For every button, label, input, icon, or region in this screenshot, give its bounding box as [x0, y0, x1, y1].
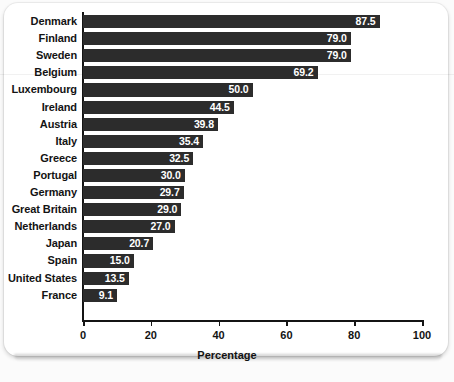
x-axis-tick-label: 0 [80, 329, 86, 341]
bar-value-label: 32.5 [169, 152, 189, 165]
bar-value-label: 39.8 [194, 118, 214, 131]
category-label: Portugal [33, 167, 77, 184]
x-axis-tick-label: 60 [280, 329, 292, 341]
category-label: Belgium [34, 64, 77, 81]
bar-row: Greece32.5 [83, 150, 422, 167]
bar-value-label: 27.0 [150, 220, 170, 233]
bar-value-label: 20.7 [129, 237, 149, 250]
x-axis-tick-label: 80 [348, 329, 360, 341]
category-label: Netherlands [15, 218, 77, 235]
x-axis-title: Percentage [0, 349, 454, 361]
bar-value-label: 44.5 [210, 101, 230, 114]
bar-row: Ireland44.5 [83, 99, 422, 116]
bar-row: Great Britain29.0 [83, 201, 422, 218]
bar: 29.7 [83, 186, 184, 199]
bar: 32.5 [83, 152, 193, 165]
bar-value-label: 79.0 [327, 32, 347, 45]
bar-value-label: 87.5 [356, 15, 376, 28]
category-label: Finland [39, 30, 77, 47]
category-label: Spain [48, 252, 77, 269]
bar: 30.0 [83, 169, 185, 182]
bar-row: Luxembourg50.0 [83, 81, 422, 98]
category-label: France [42, 287, 77, 304]
bar: 13.5 [83, 272, 129, 285]
x-axis-tick [354, 320, 356, 326]
category-label: Germany [30, 184, 77, 201]
x-axis-tick-label: 100 [413, 329, 431, 341]
bar: 87.5 [83, 15, 380, 28]
x-axis-tick [422, 320, 424, 326]
bar-row: Sweden79.0 [83, 47, 422, 64]
bar-value-label: 13.5 [105, 272, 125, 285]
bar-chart-plot-area: Denmark87.5Finland79.0Sweden79.0Belgium6… [83, 12, 422, 320]
category-label: Luxembourg [11, 81, 77, 98]
bar: 29.0 [83, 203, 181, 216]
x-axis-tick-label: 20 [145, 329, 157, 341]
bar-value-label: 50.0 [228, 83, 248, 96]
bar-row: Spain15.0 [83, 252, 422, 269]
bar-row: Italy35.4 [83, 133, 422, 150]
category-label: Great Britain [12, 201, 77, 218]
bar-value-label: 79.0 [327, 49, 347, 62]
bar-value-label: 29.7 [160, 186, 180, 199]
category-label: Italy [55, 133, 77, 150]
bar-value-label: 30.0 [161, 169, 181, 182]
bar-value-label: 29.0 [157, 203, 177, 216]
bar: 27.0 [83, 220, 175, 233]
bar-row: France9.1 [83, 287, 422, 304]
bar-row: Finland79.0 [83, 30, 422, 47]
bar-value-label: 15.0 [110, 254, 130, 267]
bar-row: Denmark87.5 [83, 13, 422, 30]
bar: 35.4 [83, 135, 203, 148]
bar: 44.5 [83, 101, 234, 114]
bar-row: Japan20.7 [83, 235, 422, 252]
bar: 50.0 [83, 83, 253, 96]
category-label: Greece [40, 150, 77, 167]
bar: 79.0 [83, 49, 351, 62]
x-axis-tick [286, 320, 288, 326]
bar-value-label: 9.1 [99, 289, 113, 302]
bar-row: Austria39.8 [83, 116, 422, 133]
category-label: United States [8, 270, 77, 287]
bar-value-label: 69.2 [294, 66, 314, 79]
x-axis-line [82, 320, 423, 322]
bar-row: Netherlands27.0 [83, 218, 422, 235]
bar: 20.7 [83, 237, 153, 250]
bar-row: Belgium69.2 [83, 64, 422, 81]
category-label: Denmark [31, 13, 77, 30]
category-label: Japan [46, 235, 77, 252]
bar-row: United States13.5 [83, 270, 422, 287]
category-label: Ireland [42, 99, 77, 116]
bar-value-label: 35.4 [179, 135, 199, 148]
chart-page: Denmark87.5Finland79.0Sweden79.0Belgium6… [0, 0, 454, 382]
x-axis-tick [219, 320, 221, 326]
bar: 39.8 [83, 118, 218, 131]
category-label: Sweden [36, 47, 77, 64]
x-axis-tick-label: 40 [212, 329, 224, 341]
bar: 15.0 [83, 254, 134, 267]
x-axis-tick [83, 320, 85, 326]
category-label: Austria [40, 116, 77, 133]
bar-row: Portugal30.0 [83, 167, 422, 184]
bar: 69.2 [83, 66, 318, 79]
bar: 79.0 [83, 32, 351, 45]
bar: 9.1 [83, 289, 117, 302]
x-axis-tick [151, 320, 153, 326]
bar-row: Germany29.7 [83, 184, 422, 201]
